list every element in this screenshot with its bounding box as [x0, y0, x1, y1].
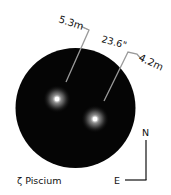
compass-north-label: N: [142, 127, 149, 138]
star-companion-core: [93, 117, 97, 121]
eyepiece-field: [16, 48, 136, 168]
object-title: ζ Piscium: [17, 175, 61, 186]
double-star-diagram: 5.3m 23.6" 4.2m ζ Piscium N E: [0, 0, 171, 195]
primary-magnitude-label: 5.3m: [57, 13, 85, 31]
companion-magnitude-label: 4.2m: [137, 52, 165, 73]
separation-label: 23.6": [100, 33, 128, 50]
star-primary-core: [55, 97, 59, 101]
compass-east-label: E: [114, 175, 120, 186]
